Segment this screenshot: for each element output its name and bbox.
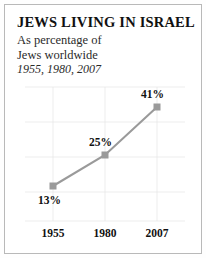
chart-frame: JEWS LIVING IN ISRAEL As percentage of J… bbox=[4, 4, 202, 254]
x-tick-2007: 2007 bbox=[146, 227, 169, 239]
data-label-2007: 41% bbox=[141, 88, 164, 100]
chart-header: JEWS LIVING IN ISRAEL As percentage of J… bbox=[17, 14, 193, 77]
data-point-marker-1955 bbox=[50, 183, 57, 190]
data-point-marker-2007 bbox=[154, 104, 161, 111]
series-line-israel-percentage bbox=[53, 107, 157, 186]
x-tick-1980: 1980 bbox=[94, 227, 117, 239]
gridlines-vertical bbox=[53, 87, 157, 221]
chart-page: JEWS LIVING IN ISRAEL As percentage of J… bbox=[0, 0, 206, 258]
chart-date-range: 1955, 1980, 2007 bbox=[17, 62, 193, 77]
chart-subtitle-line-1: As percentage of bbox=[17, 33, 193, 48]
chart-title: JEWS LIVING IN ISRAEL bbox=[17, 14, 193, 31]
chart-subtitle-line-2: Jews worldwide bbox=[17, 48, 193, 63]
data-label-1955: 13% bbox=[38, 194, 61, 206]
x-tick-1955: 1955 bbox=[42, 227, 65, 239]
data-label-1980: 25% bbox=[89, 136, 112, 148]
data-point-marker-1980 bbox=[102, 152, 109, 159]
gridlines-horizontal bbox=[25, 87, 185, 221]
